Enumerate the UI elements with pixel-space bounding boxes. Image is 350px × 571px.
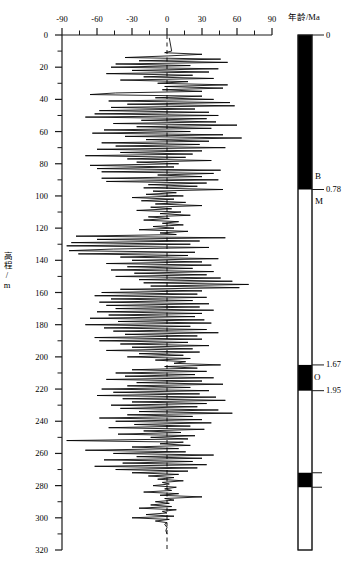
y-axis-title: 高程/m bbox=[1, 252, 13, 290]
age-tick-label: 1.95 bbox=[326, 386, 341, 395]
y-axis-tick-label: 300 bbox=[18, 514, 48, 523]
y-axis-tick-label: 100 bbox=[18, 192, 48, 201]
y-axis-tick-label: 220 bbox=[18, 385, 48, 394]
chron-label: B bbox=[315, 172, 321, 181]
y-axis-tick-label: 180 bbox=[18, 320, 48, 329]
age-column-title: 年龄/Ma bbox=[288, 10, 320, 22]
x-axis-tick-label: 30 bbox=[198, 15, 207, 24]
chart-canvas bbox=[0, 0, 350, 571]
x-axis-tick-label: -60 bbox=[91, 15, 102, 24]
age-tick-label: 1.67 bbox=[326, 360, 341, 369]
paleomagnetic-stratigraphy-figure: 高程/m 年龄/Ma -90-60-3003060900204060801001… bbox=[0, 0, 350, 571]
x-axis-tick-label: 0 bbox=[165, 15, 169, 24]
y-axis-tick-label: 280 bbox=[18, 481, 48, 490]
polarity-band-normal bbox=[298, 35, 312, 190]
y-axis-tick-label: 20 bbox=[18, 63, 48, 72]
polarity-band-normal bbox=[298, 365, 312, 391]
y-axis-tick-label: 260 bbox=[18, 449, 48, 458]
y-axis-tick-label: 160 bbox=[18, 288, 48, 297]
age-tick-label: 0 bbox=[326, 31, 330, 40]
age-tick-label: 0.78 bbox=[326, 185, 341, 194]
y-axis-tick-label: 40 bbox=[18, 95, 48, 104]
chron-label: O bbox=[314, 373, 321, 382]
x-axis-tick-label: 60 bbox=[233, 15, 242, 24]
x-axis-tick-label: -90 bbox=[56, 15, 67, 24]
y-axis-tick-label: 320 bbox=[18, 546, 48, 555]
y-axis-tick-label: 140 bbox=[18, 256, 48, 265]
y-axis-tick-label: 120 bbox=[18, 224, 48, 233]
y-axis-tick-label: 60 bbox=[18, 127, 48, 136]
y-axis-tick-label: 80 bbox=[18, 160, 48, 169]
x-axis-tick-label: -30 bbox=[126, 15, 137, 24]
y-axis-tick-label: 240 bbox=[18, 417, 48, 426]
chron-label: M bbox=[315, 197, 323, 206]
x-axis-tick-label: 90 bbox=[268, 15, 277, 24]
polarity-band-normal bbox=[298, 473, 312, 487]
inclination-trace bbox=[67, 38, 249, 534]
y-axis-tick-label: 200 bbox=[18, 353, 48, 362]
y-axis-tick-label: 0 bbox=[18, 31, 48, 40]
